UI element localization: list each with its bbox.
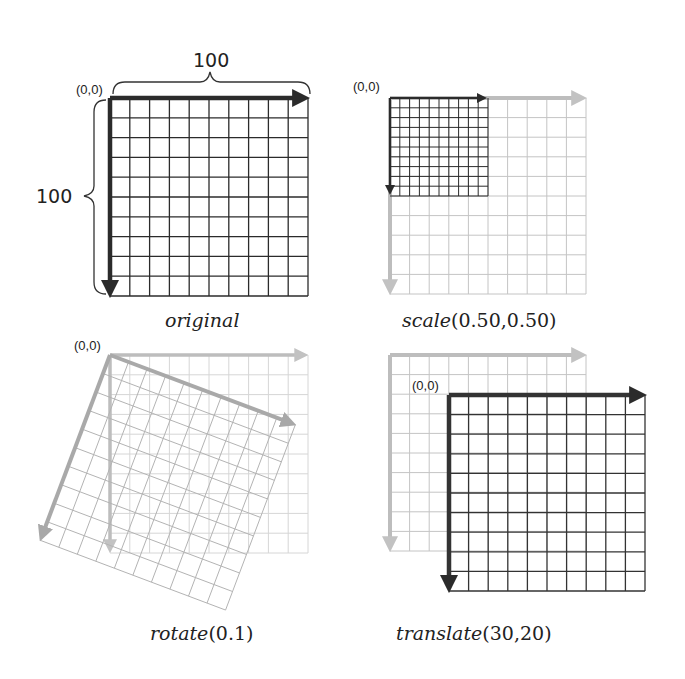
panel-translate: (0,0) translate(30,20) <box>390 355 645 644</box>
caption-scale: scale(0.50,0.50) <box>402 309 557 331</box>
grid-rotate-ghost <box>110 355 308 553</box>
grid-original <box>110 98 308 296</box>
brace-top <box>113 72 310 94</box>
transform-diagram: 100 100 (0,0) original (0,0) scale(0.50,… <box>0 0 685 679</box>
origin-label: (0,0) <box>412 378 439 393</box>
origin-label: (0,0) <box>74 338 101 353</box>
width-label: 100 <box>193 49 229 71</box>
grid-rotate <box>40 355 295 610</box>
caption-rotate: rotate(0.1) <box>150 622 253 644</box>
grid-translate-dark <box>449 395 645 591</box>
height-label: 100 <box>36 185 72 207</box>
panel-rotate: (0,0) rotate(0.1) <box>40 338 308 644</box>
panel-scale: (0,0) scale(0.50,0.50) <box>353 79 586 331</box>
origin-label: (0,0) <box>76 82 103 97</box>
grid-scale-dark <box>390 98 488 196</box>
caption-translate: translate(30,20) <box>396 622 552 644</box>
y-axis-arrow <box>42 355 110 535</box>
x-axis-arrow <box>110 355 290 423</box>
brace-left <box>84 100 106 294</box>
caption-original: original <box>165 309 239 331</box>
origin-label: (0,0) <box>353 79 380 94</box>
panel-original: 100 100 (0,0) original <box>36 49 310 331</box>
